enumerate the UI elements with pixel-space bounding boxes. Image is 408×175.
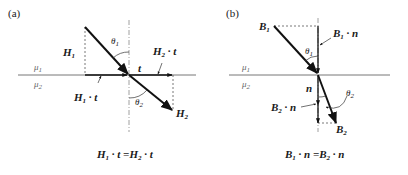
medium-1-label: μ1 <box>241 62 250 74</box>
b2-vector-arrow <box>318 75 336 123</box>
h1t-pointer <box>98 76 101 83</box>
panel-a: (a) μ1 μ2 H1 θ1 t H2 · t H1 · t θ2 H2 <box>8 7 196 162</box>
n-label: n <box>306 82 312 94</box>
medium-2-label: μ2 <box>241 79 251 91</box>
b2n-label: B2 · n <box>270 101 296 115</box>
b2-label: B2 <box>335 123 347 137</box>
h2t-pointer <box>158 63 162 74</box>
theta1-label: θ1 <box>111 36 119 48</box>
theta2-arc <box>318 96 326 97</box>
b1n-label: B1 · n <box>332 27 358 41</box>
medium-1-label: μ1 <box>33 62 42 74</box>
theta2-label: θ2 <box>135 97 143 109</box>
panel-b-label: (b) <box>226 7 239 20</box>
h1t-label: H1 · t <box>73 91 98 105</box>
theta2-label: θ2 <box>346 88 354 100</box>
theta1-label: θ1 <box>305 46 313 58</box>
medium-2-label: μ2 <box>33 79 43 91</box>
equation-b: B1 · n =B2 · n <box>284 148 344 162</box>
panel-a-label: (a) <box>8 7 21 20</box>
h2t-label: H2 · t <box>152 45 177 59</box>
theta1-arc <box>113 52 129 58</box>
b1-label: B1 <box>258 20 270 34</box>
boundary-conditions-diagram: (a) μ1 μ2 H1 θ1 t H2 · t H1 · t θ2 H2 <box>0 0 408 175</box>
h1-label: H1 <box>62 46 75 60</box>
h1-vector-arrow <box>85 27 128 74</box>
h2-label: H2 <box>175 107 189 121</box>
panel-b: (b) μ1 μ2 B1 B1 · n θ1 n θ2 B2 <box>226 7 390 162</box>
equation-a: H1 · t =H2 · t <box>96 148 154 162</box>
t-label: t <box>138 62 142 74</box>
b2n-pointer <box>301 104 316 107</box>
b1n-pointer <box>320 38 331 45</box>
